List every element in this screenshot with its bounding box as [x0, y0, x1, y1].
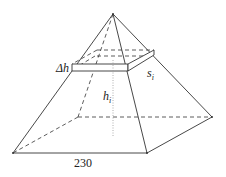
vertex-apex: [112, 13, 114, 15]
edge-base-right: [147, 117, 212, 153]
label-s-i: si: [147, 67, 154, 84]
label-h-sub: i: [109, 96, 111, 105]
label-s-sub: i: [152, 73, 154, 82]
edge-base-left: [13, 117, 78, 153]
pyramid-diagram: [0, 0, 226, 177]
label-h-i: hi: [103, 90, 111, 107]
vertex-front-right: [146, 152, 148, 154]
vertex-front-left: [12, 152, 14, 154]
slab-front-face: [72, 64, 128, 71]
label-base-length: 230: [74, 157, 92, 169]
vertex-back-right: [211, 116, 213, 118]
label-delta-h: Δh: [56, 62, 69, 74]
edge-apex-front-right: [113, 14, 147, 153]
edge-apex-front-left: [13, 14, 113, 153]
